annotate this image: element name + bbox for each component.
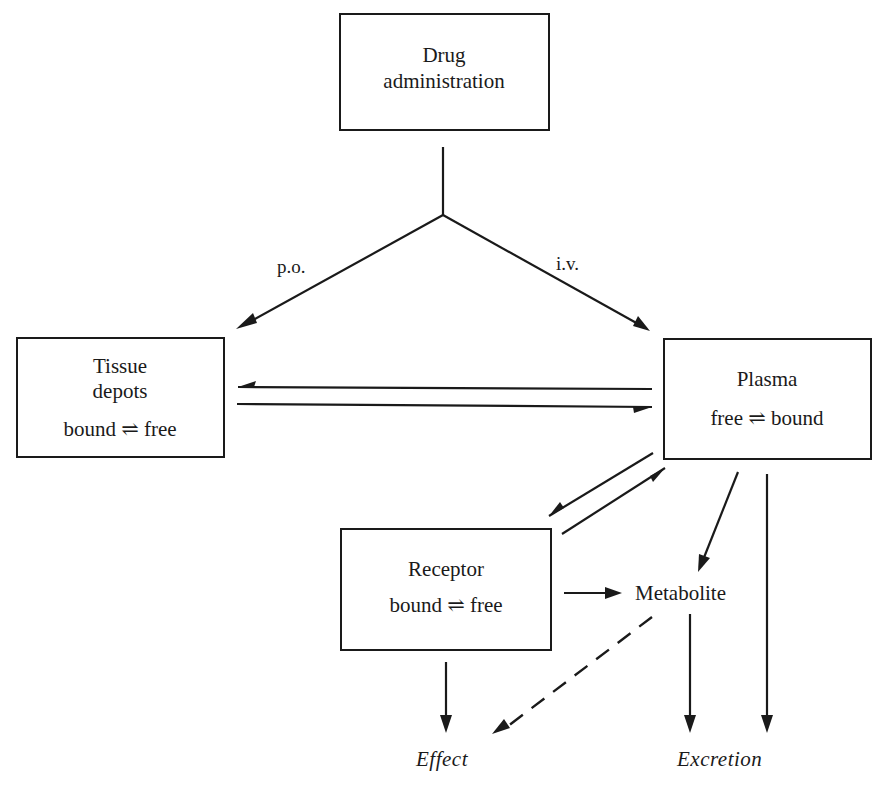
half-arrowhead-icon (650, 468, 665, 482)
intravenous-route-arrow (443, 215, 650, 331)
arrowhead-icon (605, 587, 622, 599)
receptor-to-metabolite-arrow (564, 587, 622, 599)
plasma-to-tissue-arrow (238, 381, 652, 389)
receptor-node: Receptor bound ⇌ free (341, 529, 551, 650)
receptor-to-effect-arrow (440, 662, 452, 733)
drug-administration-label-line1: Drug (422, 43, 466, 67)
arrowhead-icon (698, 554, 710, 572)
excretion-label: Excretion (676, 747, 762, 771)
drug-administration-node: Drug administration (340, 14, 549, 130)
plasma-to-excretion-arrow (761, 474, 773, 733)
tissue-to-plasma-arrow (237, 404, 652, 413)
plasma-box (664, 339, 871, 459)
plasma-label: Plasma (737, 367, 798, 391)
intravenous-route-line (443, 215, 640, 325)
pharmacokinetics-diagram: Drug administration p.o. i.v. Tissue dep… (0, 0, 886, 789)
plasma-to-metabolite-arrow (698, 472, 738, 572)
tissue-depots-label-line2: depots (93, 379, 148, 403)
half-arrowhead-icon (238, 381, 256, 387)
half-arrowhead-icon (549, 502, 564, 516)
drug-administration-label-line2: administration (383, 69, 505, 93)
tissue-depots-label-line1: Tissue (93, 354, 147, 378)
effect-label: Effect (415, 747, 469, 771)
metabolite-to-excretion-arrow (684, 614, 696, 733)
intravenous-route-label: i.v. (556, 253, 579, 274)
tissue-depots-equilibrium: bound ⇌ free (63, 417, 176, 441)
receptor-equilibrium: bound ⇌ free (389, 593, 502, 617)
tissue-to-plasma-line (237, 404, 652, 407)
receptor-label: Receptor (408, 557, 484, 581)
plasma-node: Plasma free ⇌ bound (664, 339, 871, 459)
receptor-box (341, 529, 551, 650)
plasma-to-metabolite-line (703, 472, 738, 560)
metabolite-label: Metabolite (635, 581, 726, 605)
oral-route-line (246, 215, 443, 324)
oral-route-arrow (236, 215, 443, 329)
plasma-equilibrium: free ⇌ bound (710, 406, 824, 430)
arrowhead-icon (440, 715, 452, 733)
tissue-depots-node: Tissue depots bound ⇌ free (17, 338, 224, 457)
half-arrowhead-icon (633, 407, 652, 413)
plasma-to-tissue-line (238, 387, 652, 389)
arrowhead-icon (236, 313, 257, 329)
arrowhead-icon (633, 316, 650, 331)
arrowhead-icon (684, 715, 696, 733)
arrowhead-icon (761, 715, 773, 733)
oral-route-label: p.o. (277, 256, 306, 277)
arrowhead-icon (492, 719, 510, 734)
